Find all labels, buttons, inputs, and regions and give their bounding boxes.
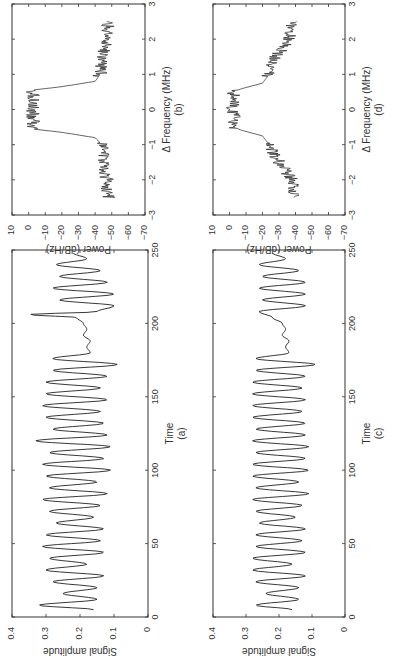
y-tick-label: −70 (339, 225, 349, 240)
panel-d-psd: −3−2−10123−70−60−50−40−30−20−10010Δ Freq… (207, 1, 383, 255)
x-tick-label: −2 (147, 175, 157, 185)
x-tick-label: 200 (347, 316, 357, 331)
x-tick-label: 250 (150, 242, 160, 257)
x-tick-label: 3 (147, 1, 157, 6)
x-tick-label: 3 (347, 1, 357, 6)
x-tick-label: 0 (150, 614, 160, 619)
x-tick-label: 150 (150, 389, 160, 404)
y-axis-label: Signal amplitude (242, 646, 316, 656)
y-tick-label: 0.1 (306, 627, 316, 640)
panel-c-time-signal: 05010015020025000.10.20.30.4Time(c)Signa… (207, 242, 383, 656)
x-tick-label: −1 (347, 140, 357, 150)
y-tick-label: −50 (106, 225, 116, 240)
plot-frame (213, 4, 345, 215)
panel-caption: (a) (176, 427, 187, 439)
y-tick-label: 0.3 (40, 627, 50, 640)
y-tick-label: 10 (207, 225, 217, 235)
y-tick-label: 0.4 (6, 627, 16, 640)
y-tick-label: 0 (339, 627, 349, 632)
panel-b-psd: −3−2−10123−70−60−50−40−30−20−10010Δ Freq… (6, 1, 183, 255)
panel-caption: (d) (373, 103, 384, 115)
y-tick-label: −60 (323, 225, 333, 240)
x-axis-label: Time (164, 422, 175, 444)
data-series-line (253, 253, 315, 610)
x-tick-label: 0 (347, 614, 357, 619)
x-tick-label: 50 (347, 539, 357, 549)
x-axis-label: Time (361, 422, 372, 444)
x-tick-label: 0 (347, 107, 357, 112)
y-tick-label: −10 (40, 225, 50, 240)
x-tick-label: 150 (347, 389, 357, 404)
y-tick-label: 0.2 (273, 627, 283, 640)
data-series-line (31, 253, 117, 610)
x-tick-label: 1 (147, 72, 157, 77)
y-tick-label: 0 (224, 225, 234, 230)
data-series-line (26, 22, 115, 198)
y-tick-label: 0.4 (207, 627, 217, 640)
x-tick-label: 200 (150, 316, 160, 331)
x-tick-label: −3 (347, 210, 357, 220)
y-tick-label: −60 (123, 225, 133, 240)
y-axis-label: Signal amplitude (43, 646, 117, 656)
y-tick-label: −10 (240, 225, 250, 240)
panel-caption: (c) (373, 428, 384, 440)
y-tick-label: −30 (273, 225, 283, 240)
y-tick-label: −20 (257, 225, 267, 240)
y-tick-label: 0 (23, 225, 33, 230)
y-tick-label: −40 (90, 225, 100, 240)
x-tick-label: −3 (147, 210, 157, 220)
y-tick-label: −50 (306, 225, 316, 240)
x-axis-label: Δ Frequency (MHz) (361, 66, 372, 152)
figure: −3−2−10123−70−60−50−40−30−20−10010Δ Freq… (0, 0, 399, 656)
panel-a-time-signal: 05010015020025000.10.20.30.4Time(a)Signa… (6, 242, 186, 656)
x-tick-label: −1 (147, 140, 157, 150)
x-tick-label: −2 (347, 175, 357, 185)
y-tick-label: −40 (290, 225, 300, 240)
x-tick-label: 100 (150, 463, 160, 478)
y-tick-label: 0.2 (74, 627, 84, 640)
y-tick-label: −20 (56, 225, 66, 240)
data-series-line (227, 22, 299, 198)
y-tick-label: 0.3 (240, 627, 250, 640)
y-tick-label: 0.1 (108, 627, 118, 640)
x-tick-label: 1 (347, 72, 357, 77)
y-tick-label: −70 (139, 225, 149, 240)
x-tick-label: 50 (150, 539, 160, 549)
y-tick-label: −30 (73, 225, 83, 240)
panel-caption: (b) (173, 103, 184, 115)
x-tick-label: 250 (347, 242, 357, 257)
x-tick-label: 100 (347, 463, 357, 478)
y-tick-label: 10 (6, 225, 16, 235)
plot-frame (12, 250, 148, 617)
figure-canvas: −3−2−10123−70−60−50−40−30−20−10010Δ Freq… (0, 0, 399, 656)
x-tick-label: 2 (347, 37, 357, 42)
x-tick-label: 0 (147, 107, 157, 112)
x-axis-label: Δ Frequency (MHz) (161, 66, 172, 152)
x-tick-label: 2 (147, 37, 157, 42)
y-tick-label: 0 (142, 627, 152, 632)
